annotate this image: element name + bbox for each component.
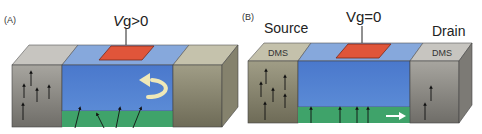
panel-a-gate-voltage: Vg>0 xyxy=(113,12,148,29)
panel-a: (A) Vg>0 xyxy=(4,12,238,128)
panel-b-label: (B) xyxy=(242,12,254,22)
spin-fet-diagram: (A) Vg>0 xyxy=(0,0,482,134)
panel-b-semiconductor xyxy=(298,61,410,107)
panel-b-gate-voltage: Vg=0 xyxy=(346,8,381,25)
panel-a-semiconductor xyxy=(62,65,173,111)
source-label: Source xyxy=(264,20,309,36)
drain-label: Drain xyxy=(432,23,465,39)
panel-a-label: (A) xyxy=(4,15,16,25)
drain-dms-label: DMS xyxy=(432,48,452,58)
source-dms-label: DMS xyxy=(268,48,288,58)
panel-a-drain-block xyxy=(173,65,222,127)
panel-b-drain-block xyxy=(410,61,459,123)
panel-b: (B) Vg=0 Source Drain DMS DMS xyxy=(242,8,472,123)
